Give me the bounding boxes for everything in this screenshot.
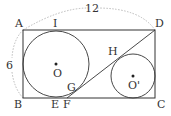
center-o-dot <box>55 63 58 66</box>
label-e: E <box>51 98 59 111</box>
label-g: G <box>67 81 76 94</box>
label-c: C <box>157 98 165 111</box>
geometry-diagram: A B C D E F G H I O O' 12 6 <box>0 0 171 116</box>
dimension-arc-top-right <box>97 8 155 30</box>
dimension-left: 6 <box>6 59 13 72</box>
dimension-top: 12 <box>85 2 99 15</box>
label-h: H <box>108 45 118 58</box>
label-b: B <box>14 98 22 111</box>
label-a: A <box>14 17 24 30</box>
label-o-prime: O' <box>128 79 140 92</box>
dimension-arc-left-top <box>12 30 23 58</box>
label-d: D <box>155 17 164 30</box>
label-f: F <box>63 98 71 111</box>
line-df <box>67 30 155 98</box>
center-o-prime-dot <box>132 75 135 78</box>
label-o: O <box>53 67 62 80</box>
dimension-arc-left-bottom <box>12 72 23 98</box>
label-i: I <box>53 17 57 30</box>
